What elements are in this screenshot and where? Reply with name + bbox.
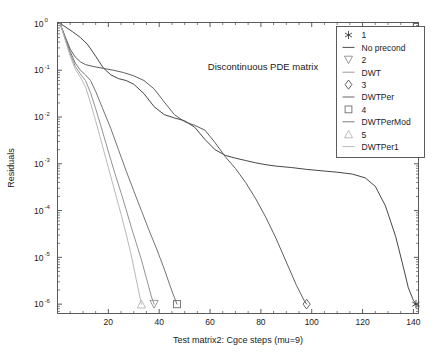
x-tick-label: 140	[406, 317, 420, 327]
y-tick-exponent: -3	[45, 157, 51, 163]
legend[interactable]: 1No precond2DWT3DWTPer4DWTPerMod5DWTPer1	[337, 27, 425, 158]
y-tick-label: 10	[34, 112, 44, 122]
y-tick-exponent: -4	[45, 204, 51, 210]
y-tick-exponent: -6	[45, 298, 51, 304]
legend-label: 3	[362, 80, 367, 90]
legend-label: 5	[362, 130, 367, 140]
y-axis-label: Residuals	[6, 148, 16, 188]
legend-label: 2	[362, 55, 367, 65]
y-tick-label: 10	[34, 206, 44, 216]
y-tick-label: 10	[34, 253, 44, 263]
x-tick-label: 80	[256, 317, 266, 327]
figure-container: 20406080100120140 10010-110-210-310-410-…	[0, 0, 432, 356]
y-tick-label: 10	[34, 299, 44, 309]
legend-label: 1	[362, 30, 367, 40]
y-tick-exponent: -1	[45, 64, 51, 70]
y-tick-label: 10	[34, 65, 44, 75]
legend-label: No precond	[362, 43, 406, 53]
x-tick-label: 40	[154, 317, 164, 327]
legend-label: DWTPer1	[362, 142, 400, 152]
legend-label: DWTPer	[362, 92, 395, 102]
y-tick-label: 10	[34, 159, 44, 169]
legend-label: 4	[362, 105, 367, 115]
x-tick-label: 120	[355, 317, 369, 327]
y-tick-label: 10	[34, 19, 44, 29]
legend-label: DWT	[362, 68, 381, 78]
x-tick-label: 100	[305, 317, 319, 327]
y-tick-exponent: -2	[45, 111, 51, 117]
chart-title-annotation: Discontinuous PDE matrix	[208, 61, 319, 72]
x-axis-label: Test matrix2: Cgce steps (mu=9)	[173, 335, 303, 345]
legend-label: DWTPerMod	[362, 117, 411, 127]
x-tick-label: 20	[104, 317, 114, 327]
residuals-convergence-chart: 20406080100120140 10010-110-210-310-410-…	[0, 0, 432, 356]
x-tick-label: 60	[205, 317, 215, 327]
y-tick-exponent: -5	[45, 251, 51, 257]
